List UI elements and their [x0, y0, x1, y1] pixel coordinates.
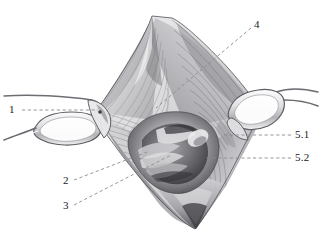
- callout-label-5-2: 5.2: [295, 152, 309, 163]
- left-retractor-tip: [98, 110, 102, 114]
- left-retractor: [4, 93, 111, 145]
- callout-label-5-1: 5.1: [295, 129, 309, 140]
- callout-label-2: 2: [63, 175, 69, 186]
- deep-structure-group: [128, 112, 219, 194]
- callout-label-4: 4: [254, 19, 260, 30]
- illustration-canvas: [0, 0, 321, 237]
- callout-label-3: 3: [63, 200, 69, 211]
- surgical-illustration-figure: 1 2 3 4 5.1 5.2: [0, 0, 321, 237]
- callout-label-1: 1: [9, 104, 15, 115]
